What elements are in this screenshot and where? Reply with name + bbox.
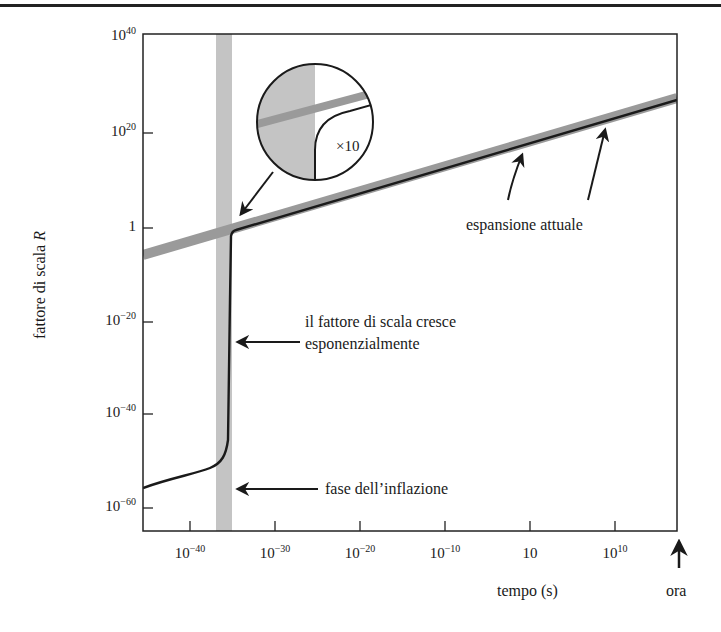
- y-ticks: [143, 133, 153, 508]
- x-tick-label-1e-10: 10−10: [415, 545, 475, 562]
- x-tick-label-1e-40: 10−40: [160, 545, 220, 562]
- growth-annotation-line2: esponenzialmente: [305, 335, 420, 353]
- inset-magnifier: [250, 60, 385, 190]
- expansion-arrow-1: [508, 155, 522, 200]
- x-axis-title: tempo (s): [497, 582, 558, 600]
- y-tick-label-1e-40: 10−40: [76, 404, 136, 421]
- x-tick-label-10: 10: [500, 545, 560, 562]
- x-tick-label-1e10: 1010: [585, 545, 645, 562]
- x-tick-label-1e-20: 10−20: [330, 545, 390, 562]
- y-tick-label-1e-20: 10−20: [76, 312, 136, 329]
- growth-annotation-line1: il fattore di scala cresce: [305, 313, 456, 331]
- y-tick-label-1e20: 1020: [76, 123, 136, 140]
- inset-pointer-arrow: [241, 172, 273, 214]
- inflation-phase-annotation: fase dell’inflazione: [325, 480, 448, 498]
- current-expansion-annotation: espansione attuale: [466, 216, 583, 234]
- y-tick-label-1: 1: [76, 218, 136, 235]
- y-axis-title: fattore di scala R: [31, 231, 49, 339]
- expansion-arrow-2: [588, 130, 605, 200]
- x-ticks: [190, 521, 615, 531]
- y-tick-label-1e40: 1040: [76, 27, 136, 44]
- inset-zoom-label: ×10: [336, 138, 359, 155]
- x-tick-label-1e-30: 10−30: [245, 545, 305, 562]
- now-label: ora: [666, 582, 686, 600]
- y-tick-label-1e-60: 10−60: [76, 498, 136, 515]
